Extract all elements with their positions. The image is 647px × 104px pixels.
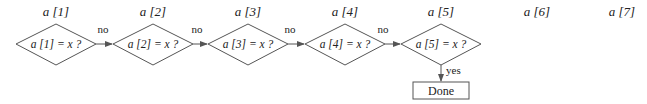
decision-node-2: a [2] = x ?: [113, 24, 193, 65]
decision-text-5: a [5] = x ?: [416, 38, 467, 50]
array-label-2: a [2]: [140, 4, 166, 19]
done-terminal: Done: [413, 82, 469, 99]
edge-no-3-4: no: [285, 23, 305, 44]
decision-node-3: a [3] = x ?: [208, 24, 288, 65]
done-text: Done: [428, 84, 454, 98]
edge-no-2-3: no: [192, 23, 208, 44]
edge-label-yes: yes: [446, 64, 461, 76]
array-label-5: a [5]: [428, 4, 454, 19]
decision-node-1: a [1] = x ?: [16, 24, 96, 65]
edge-label-no-1: no: [98, 23, 110, 35]
edge-label-no-3: no: [285, 23, 297, 35]
decision-text-4: a [4] = x ?: [320, 38, 371, 50]
decision-node-5: a [5] = x ?: [401, 24, 481, 65]
decision-node-4: a [4] = x ?: [305, 24, 385, 65]
array-label-1: a [1]: [43, 4, 69, 19]
decision-text-3: a [3] = x ?: [223, 38, 274, 50]
edge-no-4-5: no: [378, 23, 401, 44]
array-label-4: a [4]: [332, 4, 358, 19]
array-label-7: a [7]: [609, 4, 635, 19]
edge-label-no-2: no: [192, 23, 204, 35]
array-label-3: a [3]: [235, 4, 261, 19]
linear-search-flowchart: a [1] a [2] a [3] a [4] a [5] a [6] a [7…: [0, 0, 647, 104]
edge-no-1-2: no: [96, 23, 112, 44]
edge-label-no-4: no: [378, 23, 390, 35]
array-label-6: a [6]: [524, 4, 550, 19]
decision-text-1: a [1] = x ?: [31, 38, 82, 50]
edge-yes-5-done: yes: [441, 64, 461, 81]
decision-text-2: a [2] = x ?: [128, 38, 179, 50]
